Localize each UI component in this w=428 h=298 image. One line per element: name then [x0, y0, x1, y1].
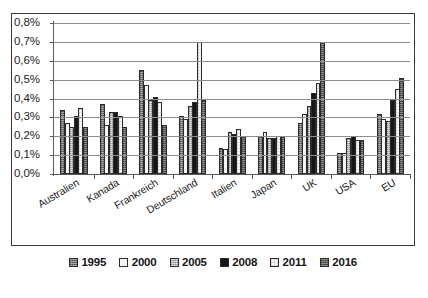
bar	[83, 127, 88, 174]
legend-item: 1995	[69, 256, 106, 268]
legend-item: 2011	[270, 256, 307, 268]
gridline	[54, 61, 410, 62]
chart-legend: 199520002005200820112016	[11, 252, 415, 272]
x-axis-category-label: EU	[379, 176, 398, 194]
y-axis-tick	[50, 174, 54, 175]
y-axis-tick	[50, 23, 54, 24]
bar	[162, 125, 167, 174]
gridline	[54, 155, 410, 156]
legend-swatch-icon	[270, 258, 279, 267]
legend-item: 2016	[320, 256, 357, 268]
gridline	[54, 23, 410, 24]
x-axis-category-label: Japan	[248, 176, 278, 201]
legend-label: 2000	[132, 256, 157, 268]
legend-label: 2016	[332, 256, 357, 268]
y-axis-tick-label: 0,1%	[14, 149, 54, 160]
y-axis-tick-label: 0,6%	[14, 55, 54, 66]
bar-chart: 0,0%0,1%0,2%0,3%0,4%0,5%0,6%0,7%0,8% Aus…	[0, 0, 428, 298]
legend-swatch-icon	[220, 258, 229, 267]
gridline	[54, 117, 410, 118]
y-axis-tick	[50, 155, 54, 156]
y-axis-tick-label: 0,0%	[14, 168, 54, 179]
y-axis-tick-label: 0,2%	[14, 130, 54, 141]
legend-label: 2011	[283, 256, 307, 268]
legend-swatch-icon	[320, 258, 329, 267]
legend-item: 2000	[119, 256, 156, 268]
x-axis-category-label: Italien	[209, 176, 239, 200]
y-axis-tick	[50, 117, 54, 118]
legend-item: 2005	[170, 256, 207, 268]
legend-label: 2005	[182, 256, 207, 268]
legend-swatch-icon	[119, 258, 128, 267]
gridline	[54, 136, 410, 137]
plot-area	[54, 23, 410, 174]
y-axis-tick-label: 0,8%	[14, 17, 54, 28]
y-axis-tick	[50, 136, 54, 137]
y-axis-tick-label: 0,3%	[14, 111, 54, 122]
y-axis-tick	[50, 80, 54, 81]
legend-item: 2008	[220, 256, 257, 268]
y-axis-tick-label: 0,7%	[14, 36, 54, 47]
y-axis-tick	[50, 61, 54, 62]
legend-label: 2008	[232, 256, 257, 268]
gridline	[54, 80, 410, 81]
y-axis-tick-label: 0,4%	[14, 93, 54, 104]
x-axis-category-labels: AustralienKanadaFrankreichDeutschlandIta…	[54, 176, 410, 234]
bar	[360, 140, 365, 174]
y-axis-tick	[50, 42, 54, 43]
bar	[122, 127, 127, 174]
legend-swatch-icon	[69, 258, 78, 267]
y-axis-tick-labels: 0,0%0,1%0,2%0,3%0,4%0,5%0,6%0,7%0,8%	[14, 13, 54, 246]
x-axis-tick	[410, 174, 411, 179]
x-axis-category-label: USA	[333, 176, 357, 197]
bar	[399, 78, 404, 174]
gridline	[54, 99, 410, 100]
y-axis-tick-label: 0,5%	[14, 74, 54, 85]
legend-swatch-icon	[170, 258, 179, 267]
y-axis-tick	[50, 99, 54, 100]
gridline	[54, 42, 410, 43]
x-axis-category-label: UK	[300, 176, 319, 194]
legend-label: 1995	[81, 256, 106, 268]
